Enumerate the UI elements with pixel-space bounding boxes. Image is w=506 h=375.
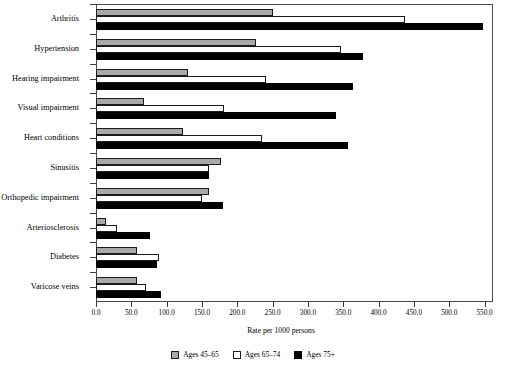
x-axis-tick-label: 350.0 — [323, 309, 363, 317]
bar-hypertension-series-0 — [96, 39, 256, 46]
x-axis-title-text: Rate per 1000 persons — [247, 326, 315, 335]
bar-heart-conditions-series-2 — [96, 142, 348, 149]
bar-orthopedic-impairment-series-2 — [96, 202, 223, 209]
bar-sinusitis-series-2 — [96, 172, 209, 179]
y-axis-minor-tick — [90, 4, 96, 5]
bar-arteriosclerosis-series-2 — [96, 232, 150, 239]
category-label-varicose-veins: Varicose veins — [0, 282, 86, 291]
bar-arteriosclerosis-series-0 — [96, 218, 106, 225]
x-axis-tick-label: 550.0 — [465, 309, 505, 317]
x-axis-tick-label: 100.0 — [147, 309, 187, 317]
bar-arthritis-series-1 — [96, 16, 405, 23]
x-axis-tick — [167, 302, 168, 307]
x-axis-tick — [449, 302, 450, 307]
bar-diabetes-series-0 — [96, 247, 137, 254]
x-axis-tick — [273, 302, 274, 307]
x-axis-tick — [237, 302, 238, 307]
y-axis-minor-tick — [90, 183, 96, 184]
bar-sinusitis-series-1 — [96, 165, 209, 172]
bar-varicose-veins-series-1 — [96, 284, 146, 291]
x-axis-tick-label: 200.0 — [217, 309, 257, 317]
y-axis-minor-tick — [90, 272, 96, 273]
bar-diabetes-series-1 — [96, 254, 159, 261]
category-label-diabetes: Diabetes — [0, 252, 86, 261]
x-axis-tick-label: 450.0 — [394, 309, 434, 317]
bar-visual-impairment-series-0 — [96, 98, 144, 105]
x-axis-tick — [308, 302, 309, 307]
x-axis-tick — [202, 302, 203, 307]
category-label-heart-conditions: Heart conditions — [0, 133, 86, 142]
category-label-hypertension: Hypertension — [0, 44, 86, 53]
x-axis-tick — [379, 302, 380, 307]
bar-chart: ArthritisHypertensionHearing impairmentV… — [0, 0, 506, 375]
bar-arteriosclerosis-series-1 — [96, 225, 117, 232]
category-label-sinusitis: Sinusitis — [0, 163, 86, 172]
category-label-orthopedic-impairment: Orthopedic impairment — [0, 193, 86, 202]
x-axis-tick-label: 150.0 — [182, 309, 222, 317]
x-axis-tick-label: 400.0 — [359, 309, 399, 317]
bar-heart-conditions-series-0 — [96, 128, 183, 135]
bar-arthritis-series-2 — [96, 23, 483, 30]
category-label-arthritis: Arthritis — [0, 14, 86, 23]
bar-orthopedic-impairment-series-0 — [96, 188, 209, 195]
legend-item-series-0: Ages 45–65 — [171, 350, 219, 359]
bar-hearing-impairment-series-2 — [96, 83, 353, 90]
x-axis-tick — [343, 302, 344, 307]
y-axis-minor-tick — [90, 242, 96, 243]
legend-item-series-2: Ages 75+ — [294, 350, 335, 359]
x-axis-tick-label: 0.0 — [76, 309, 116, 317]
bar-visual-impairment-series-1 — [96, 105, 224, 112]
x-axis-tick — [414, 302, 415, 307]
x-axis-tick — [485, 302, 486, 307]
legend-swatch-icon — [171, 351, 179, 359]
bar-sinusitis-series-0 — [96, 158, 221, 165]
chart-legend: Ages 45–65Ages 65–74Ages 75+ — [0, 350, 506, 359]
bar-varicose-veins-series-2 — [96, 291, 161, 298]
y-axis-minor-tick — [90, 123, 96, 124]
legend-label: Ages 75+ — [306, 350, 335, 359]
x-axis-tick-label: 250.0 — [253, 309, 293, 317]
bar-hypertension-series-1 — [96, 46, 341, 53]
category-label-visual-impairment: Visual impairment — [0, 103, 86, 112]
x-axis-title: Rate per 1000 persons — [0, 326, 506, 335]
legend-label: Ages 45–65 — [183, 350, 219, 359]
x-axis-tick — [96, 302, 97, 307]
legend-swatch-icon — [233, 351, 241, 359]
bar-diabetes-series-2 — [96, 261, 157, 268]
y-axis-minor-tick — [90, 34, 96, 35]
bar-visual-impairment-series-2 — [96, 112, 336, 119]
legend-item-series-1: Ages 65–74 — [233, 350, 281, 359]
y-axis-minor-tick — [90, 93, 96, 94]
y-axis-minor-tick — [90, 213, 96, 214]
category-label-hearing-impairment: Hearing impairment — [0, 74, 86, 83]
bar-hearing-impairment-series-1 — [96, 76, 266, 83]
bar-varicose-veins-series-0 — [96, 277, 137, 284]
x-axis-tick — [131, 302, 132, 307]
legend-swatch-icon — [294, 351, 302, 359]
bar-arthritis-series-0 — [96, 9, 273, 16]
bar-hypertension-series-2 — [96, 53, 363, 60]
x-axis-tick-label: 50.0 — [111, 309, 151, 317]
bar-orthopedic-impairment-series-1 — [96, 195, 202, 202]
y-axis-minor-tick — [90, 64, 96, 65]
y-axis-minor-tick — [90, 153, 96, 154]
x-axis-tick-label: 500.0 — [429, 309, 469, 317]
legend-label: Ages 65–74 — [245, 350, 281, 359]
category-label-arteriosclerosis: Arteriosclerosis — [0, 223, 86, 232]
bar-heart-conditions-series-1 — [96, 135, 262, 142]
bar-hearing-impairment-series-0 — [96, 69, 188, 76]
x-axis-tick-label: 300.0 — [288, 309, 328, 317]
